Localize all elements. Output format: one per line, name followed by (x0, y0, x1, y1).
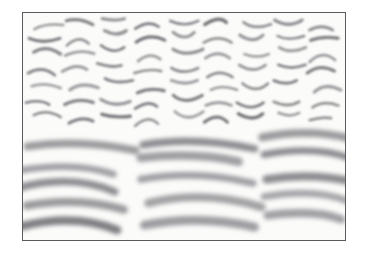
figure-root (0, 0, 368, 254)
texture-panel (22, 12, 346, 241)
fine-stroke (102, 19, 124, 20)
texture-canvas (23, 13, 345, 240)
